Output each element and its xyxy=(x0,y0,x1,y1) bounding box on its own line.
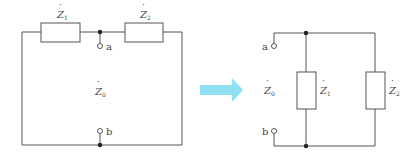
left-terminal-b xyxy=(98,129,103,134)
right-circuit: a b Z0 ˙ Z1 ˙ Z2 ˙ xyxy=(262,31,400,148)
right-terminal-b-label: b xyxy=(262,126,268,137)
right-bottom-junction xyxy=(304,144,308,148)
right-terminal-b xyxy=(272,129,277,134)
left-z1-dot: ˙ xyxy=(58,2,63,13)
right-terminal-a-label: a xyxy=(262,41,268,52)
right-z2-dot: ˙ xyxy=(390,78,395,89)
right-z0-dot: ˙ xyxy=(265,78,270,89)
left-outer-wire xyxy=(22,32,182,145)
right-z2-resistor xyxy=(366,72,385,109)
right-z1-dot: ˙ xyxy=(321,78,326,89)
transform-arrow xyxy=(200,78,243,102)
left-top-junction xyxy=(98,30,102,34)
circuit-diagram: Z1 ˙ Z2 ˙ a b Z0 ˙ a b Z0 ˙ Z1 ˙ Z2 ˙ xyxy=(0,0,417,160)
left-terminal-a-label: a xyxy=(106,41,112,52)
right-top-junction xyxy=(304,31,308,35)
left-circuit: Z1 ˙ Z2 ˙ a b Z0 ˙ xyxy=(22,2,182,147)
right-terminal-a xyxy=(272,44,277,49)
left-bottom-junction xyxy=(98,143,102,147)
left-z2-resistor xyxy=(125,23,163,42)
left-z0-dot: ˙ xyxy=(96,79,101,90)
left-z2-dot: ˙ xyxy=(141,2,146,13)
left-terminal-a xyxy=(98,44,103,49)
left-terminal-b-label: b xyxy=(106,126,112,137)
right-z1-resistor xyxy=(297,72,316,109)
left-z1-resistor xyxy=(41,23,80,42)
